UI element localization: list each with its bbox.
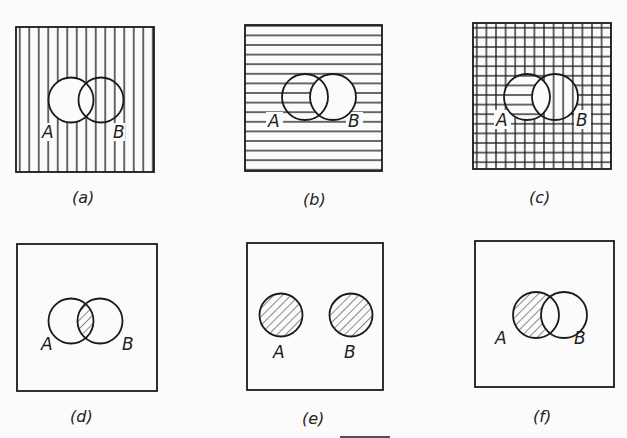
panel-f: A B (f) <box>475 241 614 426</box>
set-b-label: B <box>574 328 586 348</box>
panel-caption: (e) <box>302 409 324 428</box>
set-b-label: B <box>122 334 134 354</box>
panel-c: A B (c) <box>473 23 611 207</box>
panel-b: A B (b) <box>245 25 382 209</box>
set-b-label: B <box>576 110 588 130</box>
panel-caption: (d) <box>70 407 93 426</box>
set-a-circle <box>260 294 303 337</box>
set-b-circle <box>330 294 373 337</box>
set-a-label: A <box>267 111 280 131</box>
horizontal-shading <box>473 23 611 169</box>
universe-a-shading <box>16 27 154 172</box>
set-a-label: A <box>41 122 54 142</box>
set-a-label: A <box>40 334 53 354</box>
panel-a: A B (a) <box>16 27 154 207</box>
set-b-label: B <box>344 342 356 362</box>
panel-e: A B (e) <box>247 243 383 428</box>
set-b-label: B <box>348 111 360 131</box>
panel-caption: (c) <box>529 188 550 207</box>
panel-d: A B (d) <box>17 244 157 426</box>
panel-caption: (b) <box>303 190 326 209</box>
set-a-label: A <box>494 328 507 348</box>
set-b-label: B <box>113 122 125 142</box>
panel-caption: (a) <box>72 188 94 207</box>
set-a-label: A <box>272 342 285 362</box>
panel-caption: (f) <box>533 407 551 426</box>
set-a-label: A <box>495 110 508 130</box>
venn-diagram-figure: A B (a) A B (b) A B (c) A B (d) <box>0 0 627 438</box>
